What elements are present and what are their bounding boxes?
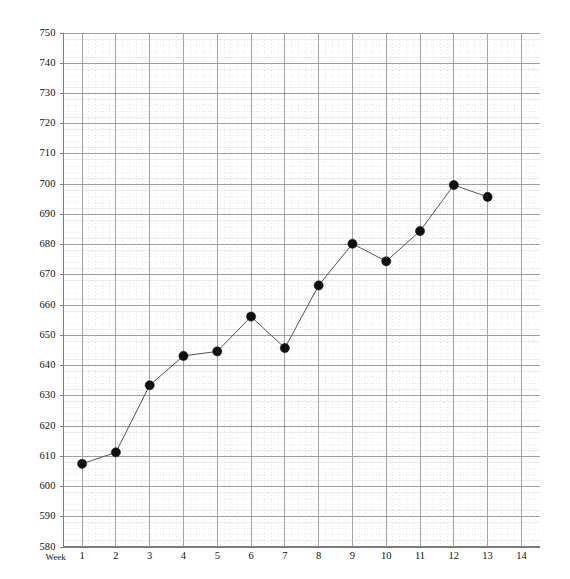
y-tick-label: 610 xyxy=(22,451,56,462)
x-tick-label: 2 xyxy=(103,551,129,562)
x-tick-label: 7 xyxy=(272,551,298,562)
y-tick-label: 710 xyxy=(22,148,56,159)
x-tick-label: 10 xyxy=(373,551,399,562)
x-tick-label: 3 xyxy=(137,551,163,562)
x-tick-label: 4 xyxy=(170,551,196,562)
y-tick-label: 590 xyxy=(22,511,56,522)
y-tick-label: 620 xyxy=(22,421,56,432)
x-tick-label: 5 xyxy=(204,551,230,562)
x-tick-label: 11 xyxy=(407,551,433,562)
y-tick-label: 600 xyxy=(22,481,56,492)
y-tick-label: 670 xyxy=(22,269,56,280)
x-axis-title: Week xyxy=(46,553,66,562)
x-tick-label: 8 xyxy=(306,551,332,562)
y-tick-label: 730 xyxy=(22,88,56,99)
y-tick-label: 720 xyxy=(22,118,56,129)
x-tick-label: 1 xyxy=(69,551,95,562)
x-tick-label: 14 xyxy=(508,551,534,562)
y-tick-label: 660 xyxy=(22,300,56,311)
x-tick-label: 6 xyxy=(238,551,264,562)
chart-plot-area xyxy=(0,0,570,579)
x-tick-label: 9 xyxy=(339,551,365,562)
line-chart: 5805906006106206306406506606706806907007… xyxy=(0,0,570,579)
y-tick-label: 700 xyxy=(22,179,56,190)
y-tick-label: 750 xyxy=(22,28,56,39)
y-tick-label: 690 xyxy=(22,209,56,220)
y-tick-label: 740 xyxy=(22,58,56,69)
x-tick-label: 13 xyxy=(475,551,501,562)
y-tick-label: 640 xyxy=(22,360,56,371)
y-tick-label: 580 xyxy=(22,542,56,553)
x-tick-label: 12 xyxy=(441,551,467,562)
y-tick-label: 680 xyxy=(22,239,56,250)
y-tick-label: 650 xyxy=(22,330,56,341)
y-tick-label: 630 xyxy=(22,390,56,401)
